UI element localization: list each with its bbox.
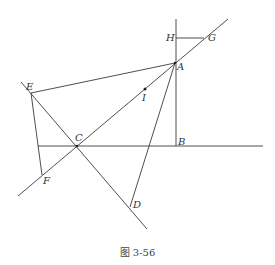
label-c: C [75, 133, 83, 143]
line-diagonal-fcag [18, 19, 228, 196]
label-b: B [178, 137, 185, 147]
segment-ea [31, 63, 175, 93]
figure-canvas [0, 0, 275, 265]
label-i: I [142, 93, 146, 103]
label-g: G [208, 33, 216, 43]
geometry-figure: H G A E I C B F D 图 3-56 [0, 0, 275, 265]
segment-ad [130, 63, 175, 207]
label-h: H [166, 33, 175, 43]
label-a: A [177, 62, 184, 72]
point-a-dot [174, 62, 176, 64]
segment-ef [31, 93, 42, 175]
label-d: D [133, 200, 141, 210]
line-ecd [21, 82, 147, 229]
figure-caption: 图 3-56 [0, 244, 275, 259]
label-e: E [26, 82, 33, 92]
label-f: F [43, 176, 50, 186]
point-i-dot [144, 88, 147, 91]
point-c-dot [76, 145, 78, 147]
